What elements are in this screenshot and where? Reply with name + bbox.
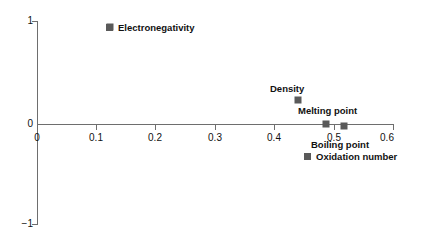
data-point-density[interactable]	[295, 97, 302, 104]
scatter-plot: 1 0 −1 0 0.1 0.2 0.3 0.4 0.5 0.6 Electro…	[0, 0, 429, 240]
annotation-oxidation-number: Oxidation number	[316, 152, 397, 162]
annotation-melting-point: Melting point	[298, 106, 357, 116]
x-tick-0	[37, 125, 38, 130]
y-tick-label-minus-1: −1	[11, 219, 33, 229]
x-tick-0-6	[393, 125, 394, 130]
data-point-melting-point[interactable]	[323, 121, 330, 128]
y-tick-label-0: 0	[14, 119, 33, 129]
data-point-boiling-point[interactable]	[341, 123, 348, 130]
x-tick-label-0: 0	[34, 133, 40, 143]
x-tick-0-2	[155, 125, 156, 130]
x-tick-label-0-6: 0.6	[380, 133, 394, 143]
y-axis-line	[37, 21, 38, 225]
y-tick-label-1: 1	[14, 16, 33, 26]
legend-marker-electronegativity	[106, 24, 113, 31]
annotation-electronegativity: Electronegativity	[118, 23, 195, 33]
legend-marker-oxidation-number	[304, 153, 311, 160]
x-tick-0-3	[215, 125, 216, 130]
x-tick-0-1	[96, 125, 97, 130]
x-tick-label-0-3: 0.3	[208, 133, 222, 143]
x-tick-0-4	[274, 125, 275, 130]
x-tick-0-5	[334, 125, 335, 130]
x-tick-label-0-2: 0.2	[148, 133, 162, 143]
x-tick-label-0-4: 0.4	[267, 133, 281, 143]
x-tick-label-0-1: 0.1	[89, 133, 103, 143]
annotation-boiling-point: Boiling point	[311, 140, 369, 150]
annotation-density: Density	[270, 84, 304, 94]
